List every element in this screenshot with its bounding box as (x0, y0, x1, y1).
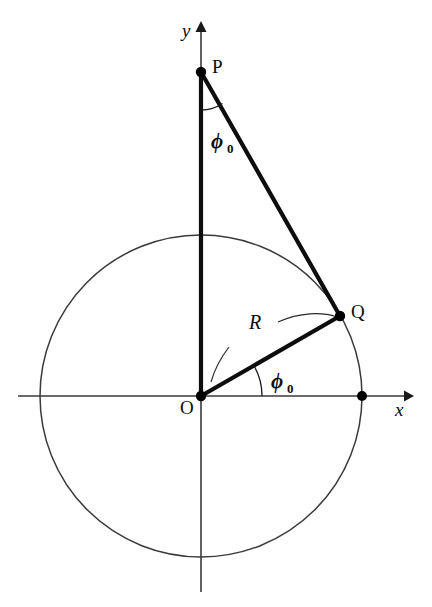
point-label-Q: Q (351, 301, 365, 322)
angle-label-phi0-at-O-subscript: 0 (287, 381, 294, 396)
segment-PQ (201, 72, 340, 316)
radius-leader-left (211, 347, 229, 382)
point-dot-O (196, 391, 206, 401)
x-axis-arrowhead (404, 391, 414, 402)
angle-label-phi0-at-P-subscript: 0 (227, 141, 234, 156)
point-dot-x-intercept (357, 391, 367, 401)
angle-label-phi0-at-P: ϕ (211, 129, 223, 153)
radius-label-R: R (248, 311, 261, 333)
y-axis-arrowhead (196, 21, 207, 32)
point-dot-Q (335, 311, 345, 321)
figure-root: P Q O y x R ϕ 0 ϕ 0 (0, 0, 432, 607)
y-axis-label: y (180, 20, 191, 41)
point-label-O: O (180, 397, 194, 418)
x-axis-label: x (394, 399, 404, 420)
geometry-diagram: P Q O y x R ϕ 0 ϕ 0 (0, 0, 432, 607)
angle-arc-at-O (255, 367, 263, 397)
angle-label-phi0-at-O: ϕ (271, 369, 283, 393)
point-label-P: P (212, 56, 223, 77)
point-dot-P (196, 67, 206, 77)
